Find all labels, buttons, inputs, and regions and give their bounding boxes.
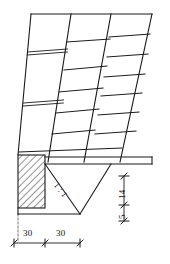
bed-joint-right-2 [107, 54, 148, 57]
bed-joint-right-1 [109, 34, 150, 37]
mortar-joint-left-1a [28, 49, 68, 52]
bed-joint-right-5 [98, 112, 139, 115]
section-drawing-svg [0, 0, 170, 264]
bed-joint-mid-5 [52, 130, 95, 134]
dim-label-14: 14 [118, 190, 127, 199]
dim-label-30-right: 30 [56, 229, 65, 238]
footing-hatched-block [18, 155, 45, 208]
slope-line-right [80, 164, 111, 214]
dim-label-30-left: 30 [23, 229, 32, 238]
bed-joint-right-4 [101, 93, 142, 96]
mortar-joint-left-1b [27, 52, 67, 55]
bed-joint-mid-1 [67, 39, 111, 42]
dim-label-5: 5 [118, 214, 127, 219]
wall-inner-divider-1 [48, 14, 71, 162]
bed-joint-right-6 [95, 131, 136, 134]
wall-left-face [18, 14, 31, 155]
bed-joint-bottom [19, 148, 122, 152]
drawing-canvas: 30 30 14 5 1 : 1 [0, 0, 170, 264]
